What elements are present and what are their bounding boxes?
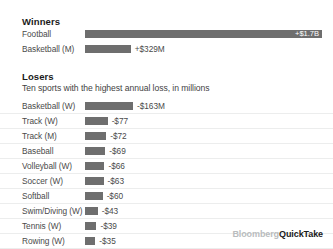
bar-value-label: -$69 bbox=[109, 144, 125, 158]
row-label: Football bbox=[22, 27, 51, 41]
value-bar bbox=[85, 30, 322, 38]
row-label: Swim/Diving (W) bbox=[22, 204, 83, 218]
brand-bloomberg: Bloomberg bbox=[232, 229, 279, 239]
losers-rows: Basketball (W)-$163MTrack (W)-$77Track (… bbox=[0, 99, 333, 249]
bar-value-label: +$329M bbox=[135, 42, 165, 56]
bar-value-label: -$77 bbox=[112, 114, 128, 128]
value-bar bbox=[85, 207, 98, 215]
losers-subtitle: Ten sports with the highest annual loss,… bbox=[0, 82, 333, 93]
bar-value-label: +$1.7B bbox=[295, 27, 319, 41]
bar-value-label: -$39 bbox=[100, 219, 116, 233]
winners-heading: Winners bbox=[0, 16, 333, 27]
value-bar bbox=[85, 177, 104, 185]
row-label: Tennis (W) bbox=[22, 219, 61, 233]
row-label: Baseball bbox=[22, 144, 53, 158]
value-bar bbox=[85, 237, 95, 245]
row-bar-track: +$1.7B bbox=[85, 27, 323, 41]
value-bar bbox=[85, 192, 103, 200]
row-label: Soccer (W) bbox=[22, 174, 63, 188]
winners-rows: Football+$1.7BBasketball (M)+$329M bbox=[0, 27, 333, 57]
row-label: Volleyball (W) bbox=[22, 159, 72, 173]
bar-value-label: -$63 bbox=[108, 174, 124, 188]
row-bar-track: -$66 bbox=[85, 159, 323, 173]
chart-row: Track (M)-$72 bbox=[0, 129, 333, 144]
row-label: Track (W) bbox=[22, 114, 58, 128]
row-bar-track: -$63 bbox=[85, 174, 323, 188]
chart-row: Track (W)-$77 bbox=[0, 114, 333, 129]
chart-row: Volleyball (W)-$66 bbox=[0, 159, 333, 174]
losers-section: Losers Ten sports with the highest annua… bbox=[0, 57, 333, 249]
row-label: Rowing (W) bbox=[22, 234, 65, 248]
bar-value-label: -$60 bbox=[107, 189, 123, 203]
row-bar-track: -$69 bbox=[85, 144, 323, 158]
value-bar bbox=[85, 45, 131, 53]
row-label: Basketball (W) bbox=[22, 99, 75, 113]
row-label: Track (M) bbox=[22, 129, 57, 143]
chart-row: Swim/Diving (W)-$43 bbox=[0, 204, 333, 219]
bar-value-label: -$163M bbox=[137, 99, 165, 113]
brand-quicktake: QuickTake bbox=[279, 229, 323, 239]
row-bar-track: -$72 bbox=[85, 129, 323, 143]
value-bar bbox=[85, 162, 104, 170]
chart-row: Basketball (W)-$163M bbox=[0, 99, 333, 114]
value-bar bbox=[85, 147, 105, 155]
value-bar bbox=[85, 117, 108, 125]
chart-row: Football+$1.7B bbox=[0, 27, 333, 42]
chart-row: Soccer (W)-$63 bbox=[0, 174, 333, 189]
row-bar-track: -$163M bbox=[85, 99, 323, 113]
row-label: Basketball (M) bbox=[22, 42, 74, 56]
value-bar bbox=[85, 222, 96, 230]
losers-heading: Losers bbox=[0, 71, 333, 82]
row-bar-track: -$43 bbox=[85, 204, 323, 218]
brand-footer: BloombergQuickTake bbox=[232, 229, 323, 239]
row-bar-track: -$60 bbox=[85, 189, 323, 203]
chart-row: Baseball-$69 bbox=[0, 144, 333, 159]
bar-value-label: -$35 bbox=[99, 234, 115, 248]
winners-section: Winners Football+$1.7BBasketball (M)+$32… bbox=[0, 0, 333, 57]
bar-value-label: -$43 bbox=[102, 204, 118, 218]
row-bar-track: +$329M bbox=[85, 42, 323, 56]
row-label: Softball bbox=[22, 189, 49, 203]
bar-value-label: -$66 bbox=[108, 159, 124, 173]
row-bar-track: -$77 bbox=[85, 114, 323, 128]
value-bar bbox=[85, 102, 133, 110]
chart-row: Basketball (M)+$329M bbox=[0, 42, 333, 57]
chart-row: Softball-$60 bbox=[0, 189, 333, 204]
bar-value-label: -$72 bbox=[110, 129, 126, 143]
value-bar bbox=[85, 132, 106, 140]
